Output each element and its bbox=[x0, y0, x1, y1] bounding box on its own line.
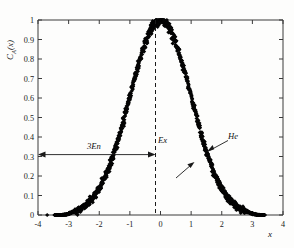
annotation-ex: Ex bbox=[157, 135, 167, 145]
x-tick-label: 3 bbox=[250, 220, 254, 229]
y-tick-label: 0.9 bbox=[24, 36, 34, 45]
x-tick-label: -4 bbox=[35, 220, 42, 229]
y-tick-label: 0.5 bbox=[24, 114, 34, 123]
leader-arrow-lower bbox=[176, 162, 195, 178]
annotation-he: He bbox=[227, 131, 238, 141]
figure-canvas: -4-3-2-101234 00.10.20.30.40.50.60.70.80… bbox=[0, 0, 294, 248]
y-axis-label-tail: (x) bbox=[5, 40, 15, 50]
plot-frame bbox=[38, 20, 283, 215]
y-tick-label: 0 bbox=[30, 211, 34, 220]
x-tick-labels: -4-3-2-101234 bbox=[35, 220, 285, 229]
x-tick-label: 1 bbox=[189, 220, 193, 229]
y-tick-label: 0.1 bbox=[24, 192, 34, 201]
chart-svg: -4-3-2-101234 00.10.20.30.40.50.60.70.80… bbox=[0, 0, 294, 248]
svg-text:CA(x): CA(x) bbox=[5, 40, 17, 60]
y-tick-label: 0.4 bbox=[24, 133, 34, 142]
y-tick-label: 0.6 bbox=[24, 94, 34, 103]
annotation-3en: 3En bbox=[86, 141, 101, 151]
span-arrow-3en bbox=[38, 152, 156, 158]
x-axis-label: x bbox=[267, 229, 272, 239]
axis-tickmarks bbox=[38, 20, 283, 215]
scatter-series-ca bbox=[45, 18, 267, 217]
x-tick-label: -2 bbox=[96, 220, 103, 229]
x-tick-label: -3 bbox=[65, 220, 72, 229]
leader-arrow-he bbox=[207, 141, 228, 153]
y-tick-label: 0.3 bbox=[24, 153, 34, 162]
y-tick-label: 1 bbox=[30, 16, 34, 25]
x-tick-label: 0 bbox=[158, 220, 162, 229]
y-axis-label: CA(x) bbox=[5, 40, 17, 60]
x-tick-label: -1 bbox=[126, 220, 133, 229]
y-tick-label: 0.7 bbox=[24, 75, 34, 84]
x-tick-label: 4 bbox=[281, 220, 285, 229]
x-tick-label: 2 bbox=[220, 220, 224, 229]
y-tick-labels: 00.10.20.30.40.50.60.70.80.91 bbox=[24, 16, 34, 220]
y-tick-label: 0.8 bbox=[24, 55, 34, 64]
y-tick-label: 0.2 bbox=[24, 172, 34, 181]
